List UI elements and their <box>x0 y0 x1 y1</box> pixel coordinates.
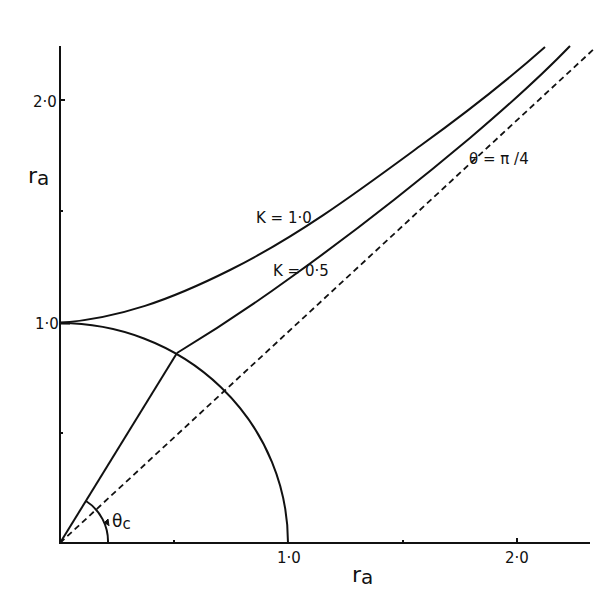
k-1-label: K = 1·0 <box>256 209 312 227</box>
k-0-5-label: K = 0·5 <box>273 262 329 280</box>
x-axis-label: ra <box>352 562 373 589</box>
k-0-5-curve <box>177 46 570 353</box>
chart-figure: 2·0 1·0 1·0 2·0 ra ra K = 1·0 K = 0·5 θ … <box>0 0 616 610</box>
y-tick-label-1: 1·0 <box>35 315 59 333</box>
k-1-curve <box>60 47 545 323</box>
theta-c-label: θc <box>112 511 131 533</box>
y-tick-label-2: 2·0 <box>33 93 57 111</box>
x-tick-label-1: 1·0 <box>277 549 301 567</box>
theta-pi-4-label: θ = π /4 <box>469 150 529 168</box>
x-tick-label-2: 2·0 <box>505 549 529 567</box>
y-axis-label: ra <box>28 163 49 190</box>
theta-pi-4-dashed-line <box>60 48 595 543</box>
